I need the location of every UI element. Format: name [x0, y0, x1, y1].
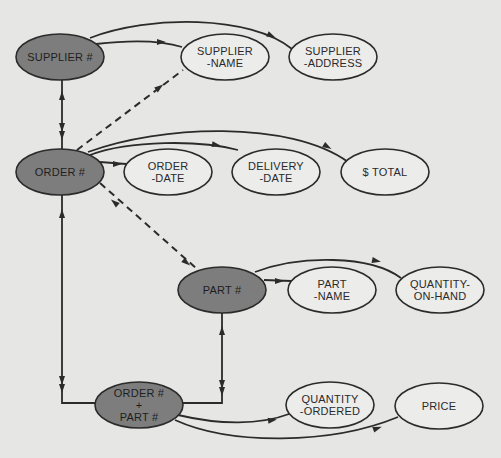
node-quantity-ordered	[286, 382, 374, 428]
arrowhead-icon	[109, 197, 120, 207]
node-order-date	[124, 149, 212, 195]
arrowhead-icon	[275, 278, 284, 284]
edge-supplier-no-to-supplier-name	[96, 41, 182, 47]
node-order-part	[95, 382, 183, 428]
node-supplier-no	[16, 34, 104, 80]
arrowhead-icon	[113, 161, 122, 167]
node-order-no	[16, 149, 104, 195]
arrowhead-icon	[212, 141, 222, 148]
diagram-edges-layer	[0, 0, 501, 458]
edge-order-no-to-supplier-name	[77, 70, 183, 150]
node-part-name	[288, 267, 376, 313]
arrowhead-icon	[59, 123, 65, 132]
node-price	[395, 383, 483, 429]
arrowhead-icon	[59, 384, 65, 393]
edge-order-part-to-order-no	[62, 195, 96, 403]
arrowhead-icon	[219, 387, 225, 396]
arrowhead-icon	[59, 131, 65, 140]
edge-order-no-to-part-no	[100, 183, 197, 269]
dependency-diagram: SUPPLIER #SUPPLIER-NAMESUPPLIER-ADDRESSO…	[0, 0, 501, 458]
node-total	[341, 149, 429, 195]
arrowhead-icon	[59, 91, 65, 100]
arrowhead-icon	[219, 326, 225, 335]
node-delivery-date	[232, 149, 320, 195]
node-supplier-address	[289, 34, 377, 80]
arrowhead-icon	[59, 376, 65, 385]
node-part-no	[178, 267, 266, 313]
arrowhead-icon	[371, 257, 381, 265]
node-quantity-on-hand	[396, 267, 484, 313]
arrowhead-icon	[157, 39, 166, 45]
edge-order-part-to-part-no	[182, 313, 222, 403]
node-supplier-name	[181, 34, 269, 80]
arrowhead-icon	[59, 209, 65, 218]
